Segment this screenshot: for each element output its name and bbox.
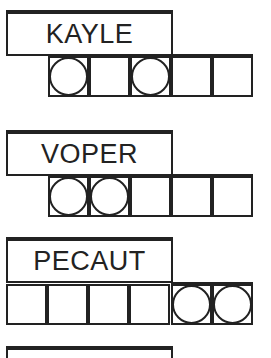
answer-cell[interactable] xyxy=(129,284,170,325)
answer-cell-circled[interactable] xyxy=(89,176,130,217)
answer-cell[interactable] xyxy=(89,56,130,97)
answer-cell[interactable] xyxy=(212,54,253,97)
answer-cell[interactable] xyxy=(212,174,253,217)
answer-cell[interactable] xyxy=(171,174,212,217)
answer-cell-circled[interactable] xyxy=(171,282,212,325)
answer-cell-circled[interactable] xyxy=(48,176,89,217)
answer-cell[interactable] xyxy=(171,54,212,97)
scrambled-word-label: PECAUT xyxy=(6,237,173,283)
answer-cell[interactable] xyxy=(130,176,171,217)
jumble-puzzle-4-partial xyxy=(6,346,173,358)
scrambled-word-label: VOPER xyxy=(6,130,173,176)
answer-cell-circled[interactable] xyxy=(130,56,171,97)
answer-cell-circled[interactable] xyxy=(48,56,89,97)
answer-cell-circled[interactable] xyxy=(212,282,253,325)
scrambled-word-label: KAYLE xyxy=(6,10,173,56)
answer-cell[interactable] xyxy=(47,284,88,325)
answer-cell[interactable] xyxy=(88,284,129,325)
answer-cell[interactable] xyxy=(6,284,47,325)
